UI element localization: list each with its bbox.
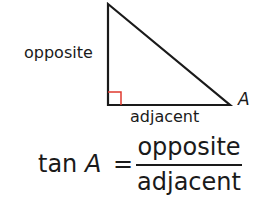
tan-function: tan [38,150,77,178]
right-angle-marker [108,92,121,105]
opposite-side-label: opposite [24,45,93,61]
triangle-outline [108,4,230,105]
fraction-denominator: adjacent [134,170,244,194]
angle-A-label: A [238,91,250,108]
angle-variable: A [85,150,101,178]
equals-sign: = [113,150,133,178]
formula-lhs: tan A = [38,152,133,176]
adjacent-side-label: adjacent [130,109,199,125]
fraction-numerator: opposite [134,135,244,159]
fraction-bar [136,164,242,166]
